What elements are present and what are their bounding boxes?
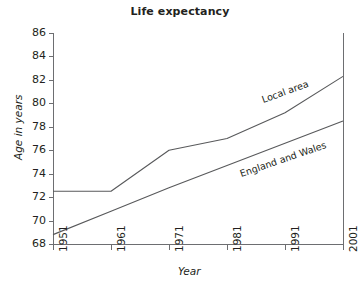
series-line — [53, 76, 343, 191]
series-line — [53, 121, 343, 235]
x-axis-tick-label: 1991 — [290, 225, 301, 252]
y-axis-tick-label: 82 — [20, 74, 46, 85]
y-axis-tick-label: 84 — [20, 50, 46, 61]
y-axis-tick-label: 70 — [20, 215, 46, 226]
y-axis-tick-label: 72 — [20, 191, 46, 202]
life-expectancy-chart: Life expectancy 68707274767880828486 195… — [0, 0, 360, 286]
x-axis-tick-label: 1971 — [174, 225, 185, 252]
y-axis-tick-label: 74 — [20, 168, 46, 179]
y-axis-tick-label: 86 — [20, 27, 46, 38]
y-axis-title: Age in years — [12, 95, 24, 160]
x-axis-tick-label: 1981 — [232, 225, 243, 252]
y-axis-tick-label: 68 — [20, 238, 46, 249]
chart-axes — [49, 33, 344, 250]
x-axis-title: Year — [178, 265, 200, 277]
x-axis-tick-label: 1961 — [116, 225, 127, 252]
x-axis-tick-label: 2001 — [348, 225, 359, 252]
x-axis-tick-label: 1951 — [58, 225, 69, 252]
